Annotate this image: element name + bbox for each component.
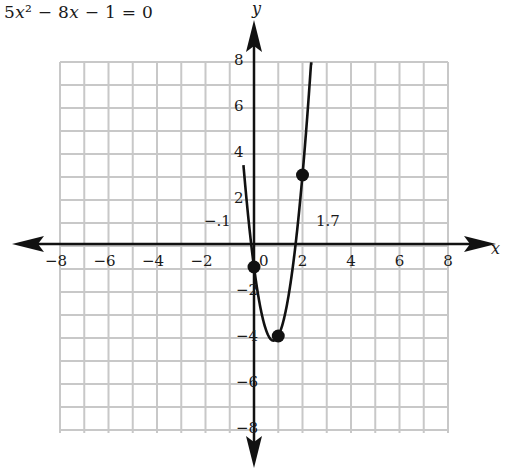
- x-tick-label: −6: [93, 252, 115, 270]
- y-tick-label: −2: [236, 281, 258, 299]
- data-point: [272, 330, 285, 343]
- y-tick-label: 8: [234, 51, 244, 69]
- y-tick-label: −8: [236, 419, 258, 437]
- x-tick-label: 2: [298, 252, 308, 270]
- root-label-left: −.1: [204, 212, 231, 230]
- data-point: [296, 169, 309, 182]
- y-tick-label: −6: [236, 373, 258, 391]
- x-tick-label: 6: [395, 252, 405, 270]
- root-annotations: −.11.7: [204, 212, 340, 230]
- root-label-right: 1.7: [316, 212, 340, 230]
- y-tick-label: −4: [236, 327, 258, 345]
- x-tick-label: −4: [142, 252, 164, 270]
- data-point: [248, 261, 261, 274]
- x-tick-label: −2: [190, 252, 212, 270]
- x-tick-label: 8: [443, 252, 453, 270]
- x-tick-label: 4: [346, 252, 356, 270]
- y-axis-label: y: [251, 0, 262, 18]
- x-tick-label: −8: [45, 252, 67, 270]
- y-tick-label: 2: [234, 189, 244, 207]
- y-tick-label: 6: [234, 97, 244, 115]
- parabola-chart: x y −8−6−4−202468−8−6−4−22468 −.11.7: [0, 0, 510, 473]
- y-tick-label: 4: [234, 143, 244, 161]
- x-axis-label: x: [491, 239, 500, 258]
